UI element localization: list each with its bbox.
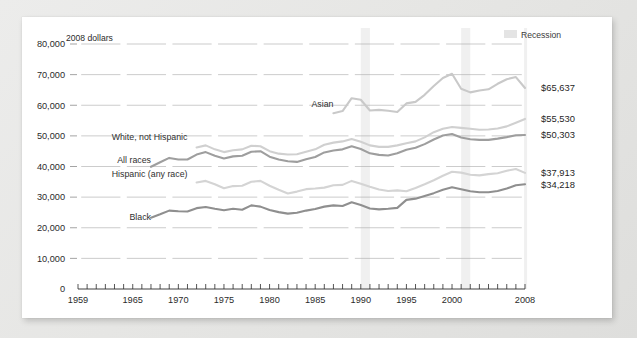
series-end-value-3: $37,913 xyxy=(541,167,575,178)
recession-swatch xyxy=(504,30,517,38)
gridlines xyxy=(81,44,522,258)
x-axis-tick-label: 1965 xyxy=(123,295,143,305)
series-label-2: All races xyxy=(117,155,151,165)
series-label-4: Black xyxy=(129,212,151,222)
y-axis-ticks xyxy=(70,44,77,258)
x-axis-tick-label: 1975 xyxy=(214,295,234,305)
y-axis-tick-label: 30,000 xyxy=(37,192,65,202)
y-axis-tick-label: 20,000 xyxy=(37,223,65,233)
y-axis-tick-label: 50,000 xyxy=(37,131,65,141)
recession-band xyxy=(524,28,527,289)
y-axis-tick-label: 70,000 xyxy=(37,70,65,80)
series-end-value-4: $34,218 xyxy=(541,179,575,190)
y-axis-tick-label: 40,000 xyxy=(37,162,65,172)
y-axis-unit-label: 2008 dollars xyxy=(66,33,113,43)
series-label-0: Asian xyxy=(311,99,333,109)
series-end-value-2: $50,303 xyxy=(541,129,575,140)
y-axis-labels: 010,00020,00030,00040,00050,00060,00070,… xyxy=(37,39,65,294)
chart-card: 010,00020,00030,00040,00050,00060,00070,… xyxy=(22,17,612,318)
x-axis-tick-label: 2008 xyxy=(515,295,535,305)
x-axis-tick-label: 1995 xyxy=(396,295,416,305)
series-end-value-1: $55,530 xyxy=(541,113,575,124)
income-line-chart: 010,00020,00030,00040,00050,00060,00070,… xyxy=(22,17,612,318)
recession-legend-label: Recession xyxy=(521,30,561,40)
x-axis-ticks xyxy=(78,284,525,289)
x-axis-tick-label: 1990 xyxy=(351,295,371,305)
x-axis-tick-label: 1985 xyxy=(305,295,325,305)
x-axis-tick-label: 1959 xyxy=(68,295,88,305)
y-axis-tick-label: 0 xyxy=(60,284,65,294)
recession-band xyxy=(361,28,370,289)
x-axis-tick-label: 1980 xyxy=(259,295,279,305)
x-axis-tick-label: 1970 xyxy=(168,295,188,305)
recession-bands xyxy=(361,28,527,289)
recession-band xyxy=(461,28,470,289)
y-axis-tick-label: 60,000 xyxy=(37,101,65,111)
series-end-values: $65,637$55,530$50,303$37,913$34,218 xyxy=(541,82,575,189)
x-axis-tick-label: 2000 xyxy=(442,295,462,305)
series-label-1: White, not Hispanic xyxy=(112,132,188,142)
y-axis-tick-label: 80,000 xyxy=(37,39,65,49)
x-axis-labels: 1959196519701975198019851990199520002008 xyxy=(68,295,535,305)
series-line-3 xyxy=(197,169,525,194)
y-axis-tick-label: 10,000 xyxy=(37,254,65,264)
figure-root: 010,00020,00030,00040,00050,00060,00070,… xyxy=(0,0,637,338)
series-label-3: Hispanic (any race) xyxy=(112,169,188,179)
series-end-value-0: $65,637 xyxy=(541,82,575,93)
